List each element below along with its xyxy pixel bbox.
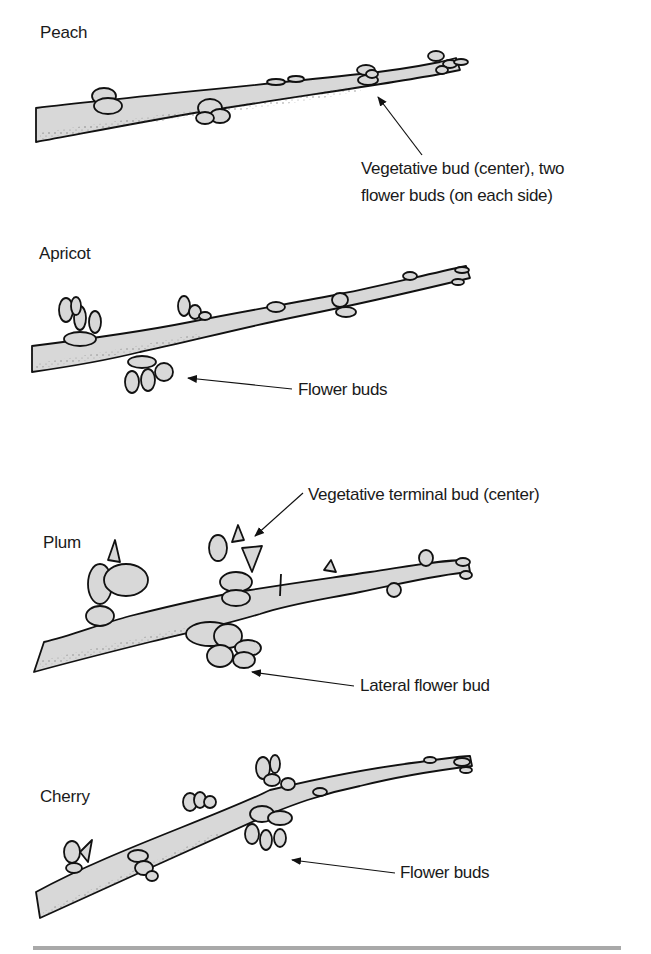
plum-branch <box>34 525 472 672</box>
apricot-bud-cluster-left <box>59 297 101 346</box>
cherry-branch <box>36 755 472 918</box>
plum-arrow-terminal <box>255 493 303 536</box>
cherry-spur-buds-upper <box>256 755 295 790</box>
plum-lateral-flower-bud <box>186 622 261 668</box>
peach-branch <box>36 51 468 142</box>
bottom-rule <box>33 946 621 950</box>
plum-arrow-lateral <box>252 672 354 686</box>
branch-illustrations <box>0 0 651 954</box>
cherry-flower-buds <box>245 806 292 850</box>
apricot-arrow <box>188 378 292 389</box>
apricot-bud-mid <box>178 296 211 320</box>
cherry-arrow <box>292 860 395 873</box>
peach-bud-1 <box>92 88 122 114</box>
apricot-branch <box>32 266 470 393</box>
apricot-flower-buds <box>125 356 173 393</box>
peach-arrow <box>378 97 422 155</box>
cherry-bud-top <box>183 792 216 811</box>
